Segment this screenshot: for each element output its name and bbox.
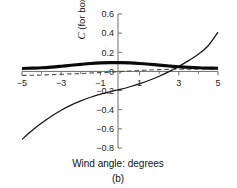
y-tick-label: −0.8 [96, 143, 114, 153]
chart-canvas: 0.60.40.20−0.2−0.4−0.6−0.8 −5−3−1135 C (… [0, 0, 237, 188]
x-tick-label: 5 [215, 78, 220, 88]
y-tick-label: −0.6 [96, 124, 114, 134]
y-tick-label: 0.4 [101, 28, 114, 38]
y-axis-title-symbol: C [76, 32, 87, 40]
y-axis-title: C (for box) [76, 0, 87, 40]
y-tick-label: 0.6 [101, 9, 114, 19]
chart-figure: 0.60.40.20−0.2−0.4−0.6−0.8 −5−3−1135 C (… [0, 0, 237, 188]
x-tick-label: 3 [176, 78, 181, 88]
y-axis-title-units: (for box) [76, 0, 87, 30]
panel-label: (b) [112, 173, 124, 184]
y-tick-label: −0.4 [96, 105, 114, 115]
y-tick-label: 0.2 [101, 48, 114, 58]
x-tick-label: −1 [95, 78, 105, 88]
x-tick-label: −5 [17, 78, 27, 88]
x-tick-label: −3 [56, 78, 66, 88]
x-axis-title: Wind angle: degrees [72, 158, 164, 169]
